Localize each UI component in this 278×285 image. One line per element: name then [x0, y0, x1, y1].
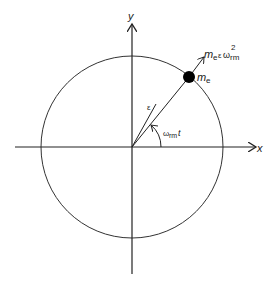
svg-text:m: m: [197, 71, 206, 83]
svg-text:t: t: [178, 128, 181, 138]
svg-text:e: e: [206, 76, 211, 85]
angle-label: ω rm t: [163, 128, 181, 139]
radius-epsilon-label: ε: [147, 103, 151, 112]
svg-text:ε: ε: [218, 51, 222, 60]
angle-arc: [151, 125, 161, 147]
epsilon-dimension-line: [132, 104, 156, 147]
svg-text:m: m: [204, 48, 213, 60]
svg-text:ω: ω: [223, 50, 230, 60]
eccentric-mass: [183, 71, 195, 83]
svg-text:2: 2: [231, 43, 236, 52]
eccentric-mass-diagram: x y m e m e ε ω rm 2 ε ω rm t: [0, 0, 278, 285]
x-axis-label: x: [256, 142, 263, 154]
svg-text:rm: rm: [230, 53, 240, 62]
svg-text:rm: rm: [169, 132, 177, 139]
force-label: m e ε ω rm 2: [204, 43, 240, 62]
y-axis-label: y: [127, 10, 135, 22]
mass-label: m e: [197, 71, 211, 85]
